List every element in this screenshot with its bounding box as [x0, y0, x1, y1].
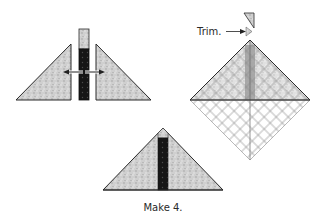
- trimmed-piece: [244, 13, 254, 28]
- step1-group: [16, 29, 151, 100]
- trim-triangle-marker: [246, 27, 252, 36]
- trim-label: Trim.: [196, 26, 221, 37]
- make-caption: Make 4.: [143, 202, 182, 213]
- step3-group: Make 4.: [103, 128, 223, 213]
- finished-strip-dark: [158, 138, 168, 190]
- strip-dark: [79, 49, 89, 100]
- trim-arrow-icon: [226, 29, 246, 34]
- strip-light-top: [79, 29, 89, 49]
- left-triangle: [16, 44, 71, 100]
- step2-group: Trim.: [185, 13, 315, 165]
- quilt-diagram: Trim. Make 4.: [0, 0, 322, 220]
- finished-strip-tip: [158, 128, 168, 138]
